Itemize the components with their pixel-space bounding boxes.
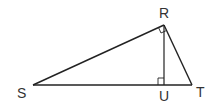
segment-RT <box>164 25 192 85</box>
vertex-label-U: U <box>159 88 169 103</box>
vertex-label-S: S <box>17 85 26 101</box>
vertex-label-R: R <box>159 5 169 21</box>
right-angle-marker-U <box>158 78 164 85</box>
vertex-label-T: T <box>196 84 205 100</box>
triangle-diagram: R S U T <box>0 0 213 103</box>
segment-SR <box>33 25 164 85</box>
diagram-svg: R S U T <box>0 0 213 103</box>
